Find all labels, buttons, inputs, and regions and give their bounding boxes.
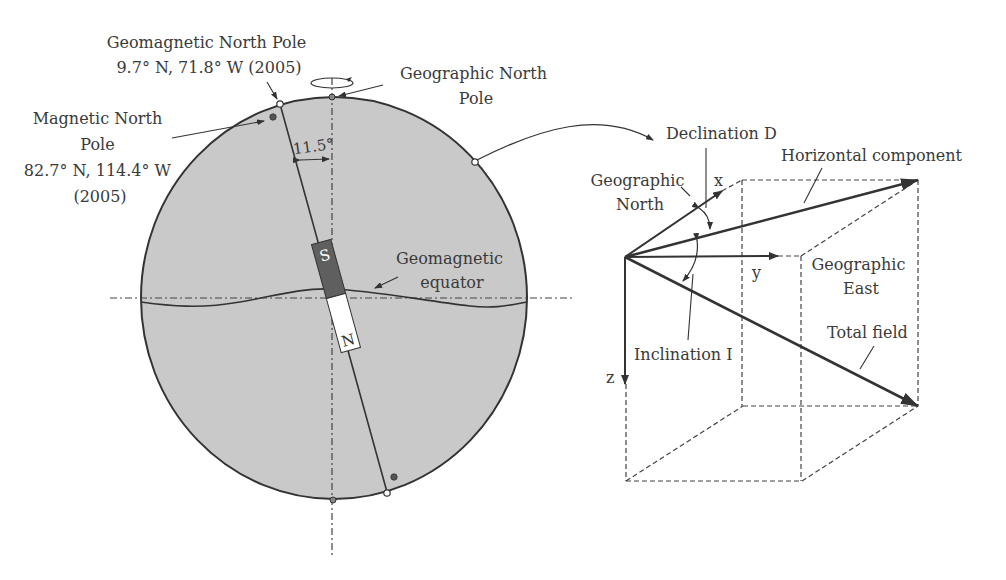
magnetic-south-pole-dot	[391, 474, 397, 480]
earth-globe: S N 11.5° Geomagnetic North Pole 9.7° N,…	[24, 33, 653, 556]
y-axis-label: y	[751, 263, 761, 282]
horizontal-component-label: Horizontal component	[781, 146, 963, 165]
geographic-north-pole-marker	[329, 94, 335, 100]
geomagnetic-pole-leader	[267, 82, 277, 99]
inclination-arc	[683, 240, 697, 281]
total-field-label: Total field	[827, 323, 908, 342]
geographic-north-pole-label: Geographic North Pole	[400, 64, 552, 108]
magnetic-north-pole-dot	[270, 114, 276, 120]
declination-label: Declination D	[666, 124, 777, 143]
horizontal-component-vector	[625, 180, 918, 257]
geographic-south-pole-marker	[330, 497, 336, 503]
inclination-label: Inclination I	[634, 345, 733, 364]
geomagnetic-south-pole-marker	[384, 490, 390, 496]
y-axis-arrow	[625, 256, 778, 257]
horizontal-component-leader	[804, 168, 822, 203]
magnetic-north-pole-label: Magnetic North Pole 82.7° N, 114.4° W (2…	[24, 109, 176, 206]
x-axis-label: x	[714, 171, 723, 190]
z-axis-label: z	[606, 368, 614, 387]
field-components-diagram: Declination D Geographic North x Horizon…	[590, 124, 962, 481]
geomagnetic-north-pole-marker	[277, 101, 283, 107]
geographic-north-label: Geographic North	[590, 171, 689, 214]
site-to-diagram-connector	[477, 125, 653, 160]
geomagnetic-north-pole-label: Geomagnetic North Pole 9.7° N, 71.8° W (…	[107, 33, 312, 77]
declination-arc	[699, 208, 710, 229]
inclination-leader	[688, 274, 693, 340]
total-field-leader	[860, 346, 874, 369]
geographic-east-label: Geographic East	[811, 255, 910, 298]
geomagnetic-field-diagram: S N 11.5° Geomagnetic North Pole 9.7° N,…	[0, 0, 1006, 580]
